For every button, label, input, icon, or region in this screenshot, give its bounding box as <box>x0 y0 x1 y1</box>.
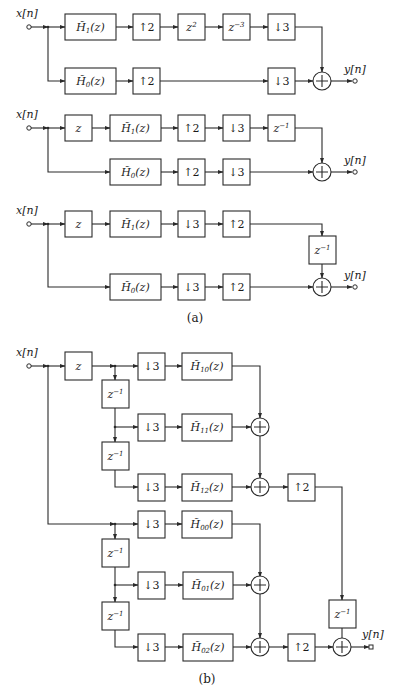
svg-text:z: z <box>75 122 82 135</box>
delay-z-1-box: z−1 <box>102 602 129 630</box>
delay-z-1-box: z−1 <box>268 115 295 141</box>
svg-text:↑2: ↑2 <box>293 641 309 654</box>
delay-z-3-box: z−3 <box>223 14 250 40</box>
delay-z-1-box: z−1 <box>329 600 356 628</box>
svg-text:↓3: ↓3 <box>273 21 289 34</box>
downsampler-box: ↓3 <box>268 14 295 40</box>
input-label: x[n] <box>16 346 39 359</box>
diagram-b: x[n] z ↓3 H̃10(z) z−1 <box>16 346 385 661</box>
svg-text:z: z <box>75 360 82 373</box>
filter-h0-box: H̃0(z) <box>110 159 161 185</box>
svg-text:↑2: ↑2 <box>228 218 244 231</box>
svg-text:↓3: ↓3 <box>143 518 159 531</box>
upsampler-box: ↑2 <box>178 159 205 185</box>
input-terminal <box>27 364 31 368</box>
svg-text:↑2: ↑2 <box>228 281 244 294</box>
adder <box>313 72 331 90</box>
adder <box>313 163 331 181</box>
diagram-a1: x[n] H̃1(z) ↑2 z2 z−3 ↓3 <box>16 7 367 94</box>
adder <box>313 278 331 296</box>
delay-z-1-box: z−1 <box>102 442 129 470</box>
input-terminal <box>27 126 31 130</box>
downsampler-box: ↓3 <box>138 353 165 380</box>
svg-text:↓3: ↓3 <box>143 641 159 654</box>
filter-h0-box: H̃0(z) <box>65 68 116 94</box>
adder <box>251 638 269 656</box>
downsampler-box: ↓3 <box>138 414 165 441</box>
output-label: y[n] <box>361 628 385 641</box>
svg-text:↓3: ↓3 <box>228 166 244 179</box>
delay-z-1-box: z−1 <box>102 380 129 408</box>
delay-z-box: z <box>65 211 92 237</box>
output-label: y[n] <box>343 269 367 282</box>
delay-z2-box: z2 <box>178 14 205 40</box>
diagram-a3: x[n] z H̃1(z) ↓3 ↑2 z−1 <box>16 204 367 300</box>
upsampler-box: ↑2 <box>178 115 205 141</box>
svg-text:↑2: ↑2 <box>138 75 154 88</box>
svg-text:H̃0(z): H̃0(z) <box>120 166 149 180</box>
filter-h01-box: H̃01(z) <box>183 572 233 599</box>
input-label: x[n] <box>16 204 39 217</box>
downsampler-box: ↓3 <box>138 572 165 599</box>
svg-text:↓3: ↓3 <box>143 360 159 373</box>
output-label: y[n] <box>343 63 367 76</box>
svg-text:↓3: ↓3 <box>143 421 159 434</box>
output-terminal <box>353 79 357 83</box>
upsampler-box: ↑2 <box>223 211 250 237</box>
svg-text:↓3: ↓3 <box>143 481 159 494</box>
caption-a: (a) <box>187 311 204 325</box>
upsampler-box: ↑2 <box>288 634 315 661</box>
upsampler-box: ↑2 <box>133 68 160 94</box>
diagram-a2: x[n] z H̃1(z) ↑2 ↓3 z−1 <box>16 108 367 185</box>
downsampler-box: ↓3 <box>178 211 205 237</box>
svg-text:↑2: ↑2 <box>183 122 199 135</box>
input-terminal <box>27 222 31 226</box>
adder <box>333 638 351 656</box>
filter-h0-box: H̃0(z) <box>110 274 161 300</box>
delay-z-box: z <box>65 352 92 380</box>
downsampler-box: ↓3 <box>138 511 165 538</box>
downsampler-box: ↓3 <box>138 634 165 661</box>
downsampler-box: ↓3 <box>178 274 205 300</box>
svg-text:↓3: ↓3 <box>143 579 159 592</box>
svg-text:↑2: ↑2 <box>138 21 154 34</box>
svg-text:↓3: ↓3 <box>183 281 199 294</box>
svg-text:H̃1(z): H̃1(z) <box>120 218 149 232</box>
downsampler-box: ↓3 <box>138 474 165 501</box>
filter-h10-box: H̃10(z) <box>182 353 232 380</box>
delay-z-box: z <box>65 115 92 141</box>
caption-b: (b) <box>198 672 215 686</box>
upsampler-box: ↑2 <box>288 474 315 501</box>
output-label: y[n] <box>343 154 367 167</box>
input-label: x[n] <box>16 7 39 20</box>
output-terminal <box>369 645 373 649</box>
filter-h1-box: H̃1(z) <box>110 211 161 237</box>
output-terminal <box>353 170 357 174</box>
delay-z-1-box: z−1 <box>309 236 336 264</box>
svg-text:↓3: ↓3 <box>183 218 199 231</box>
input-label: x[n] <box>16 108 39 121</box>
svg-text:H̃1(z): H̃1(z) <box>120 122 149 136</box>
upsampler-box: ↑2 <box>223 274 250 300</box>
output-terminal <box>353 285 357 289</box>
svg-text:z: z <box>75 218 82 231</box>
filter-h1-box: H̃1(z) <box>65 14 116 40</box>
svg-text:↑2: ↑2 <box>293 481 309 494</box>
adder <box>251 576 269 594</box>
downsampler-box: ↓3 <box>223 115 250 141</box>
filter-h1-box: H̃1(z) <box>110 115 161 141</box>
adder <box>251 418 269 436</box>
downsampler-box: ↓3 <box>223 159 250 185</box>
svg-text:↓3: ↓3 <box>273 75 289 88</box>
svg-text:↓3: ↓3 <box>228 122 244 135</box>
svg-text:H̃0(z): H̃0(z) <box>75 75 104 89</box>
filter-h11-box: H̃11(z) <box>182 414 232 441</box>
svg-text:H̃1(z): H̃1(z) <box>75 21 104 35</box>
delay-z-1-box: z−1 <box>102 539 129 567</box>
multirate-filter-bank-figure: x[n] H̃1(z) ↑2 z2 z−3 ↓3 <box>0 0 393 697</box>
svg-text:↑2: ↑2 <box>183 166 199 179</box>
svg-text:H̃0(z): H̃0(z) <box>120 281 149 295</box>
input-terminal <box>27 25 31 29</box>
downsampler-box: ↓3 <box>268 68 295 94</box>
adder <box>251 478 269 496</box>
